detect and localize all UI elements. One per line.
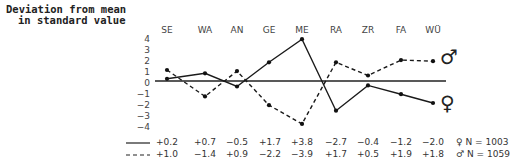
table-value-cell: +3.8 xyxy=(291,137,313,147)
data-point-marker xyxy=(300,37,304,41)
data-point-marker xyxy=(165,68,169,72)
male-n-label: ♂ N = 1059 xyxy=(456,149,510,159)
male-n-value: N = 1059 xyxy=(467,149,510,159)
data-point-marker xyxy=(267,103,271,107)
data-point-marker xyxy=(267,60,271,64)
table-value-cell: +1.7 xyxy=(325,149,347,159)
table-value-cell: +0.9 xyxy=(226,149,248,159)
data-point-marker xyxy=(366,73,370,77)
male-symbol-small-icon: ♂ xyxy=(456,149,464,159)
table-value-cell: +0.7 xyxy=(194,137,216,147)
table-value-cell: +0.2 xyxy=(156,137,178,147)
female-symbol-small-icon: ♀ xyxy=(456,137,463,147)
table-value-cell: +1.7 xyxy=(259,137,281,147)
data-point-marker xyxy=(431,101,435,105)
data-point-marker xyxy=(399,58,403,62)
data-point-marker xyxy=(203,71,207,75)
data-point-marker xyxy=(334,109,338,113)
table-value-cell: +0.5 xyxy=(357,149,379,159)
table-value-cell: −2.0 xyxy=(422,137,444,147)
table-value-cell: −2.7 xyxy=(325,137,347,147)
data-point-marker xyxy=(334,60,338,64)
female-series-line xyxy=(167,39,433,111)
female-symbol-icon: ♀ xyxy=(440,93,455,113)
male-symbol-icon: ♂ xyxy=(440,47,458,67)
table-value-cell: −1.2 xyxy=(390,137,412,147)
table-value-cell: −2.2 xyxy=(259,149,281,159)
table-value-cell: +1.9 xyxy=(390,149,412,159)
data-point-marker xyxy=(235,69,239,73)
data-point-marker xyxy=(235,84,239,88)
table-value-cell: −0.5 xyxy=(226,137,248,147)
table-value-cell: +1.8 xyxy=(422,149,444,159)
table-value-cell: −0.4 xyxy=(357,137,379,147)
table-value-cell: −1.4 xyxy=(194,149,216,159)
data-point-marker xyxy=(203,94,207,98)
female-n-label: ♀ N = 1003 xyxy=(456,137,508,147)
data-point-marker xyxy=(399,92,403,96)
data-point-marker xyxy=(300,122,304,126)
data-point-marker xyxy=(431,59,435,63)
data-point-marker xyxy=(165,77,169,81)
female-n-value: N = 1003 xyxy=(465,137,508,147)
table-value-cell: −3.9 xyxy=(291,149,313,159)
table-value-cell: +1.0 xyxy=(156,149,178,159)
data-point-marker xyxy=(366,83,370,87)
